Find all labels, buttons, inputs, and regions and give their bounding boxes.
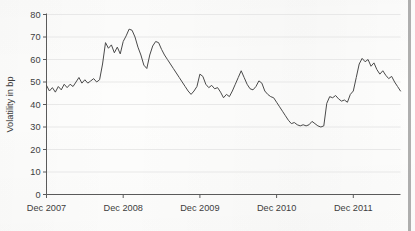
y-tick-label: 30 [30,122,40,132]
x-tick-label: Dec 2011 [334,203,373,213]
page-edge-shadow [408,0,411,231]
y-tick-label: 80 [30,10,40,20]
y-tick-label: 0 [35,190,40,200]
y-tick-label: 40 [30,100,40,110]
y-tick-label: 10 [30,167,40,177]
y-tick-label: 70 [30,32,40,42]
y-tick-label: 20 [30,145,40,155]
x-tick-label: Dec 2007 [27,203,66,213]
data-line-volatility [47,29,401,127]
chart-figure: 01020304050607080Dec 2007Dec 2008Dec 200… [0,0,415,231]
y-axis-title: Volatility in bp [5,76,15,132]
y-tick-label: 50 [30,77,40,87]
y-tick-label: 60 [30,55,40,65]
volatility-line-chart: 01020304050607080Dec 2007Dec 2008Dec 200… [0,0,415,231]
x-tick-label: Dec 2008 [104,203,143,213]
x-tick-label: Dec 2010 [257,203,296,213]
x-tick-label: Dec 2009 [180,203,219,213]
